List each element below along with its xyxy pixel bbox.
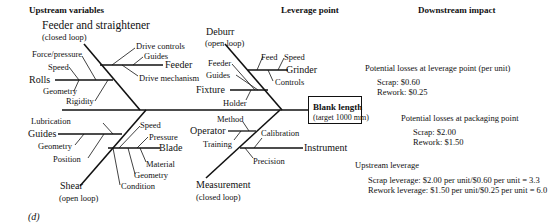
cause-guides-fixture: Guides <box>206 71 230 80</box>
cause-force-pressure: Force/pressure <box>32 50 82 59</box>
branch-blade: Blade <box>159 143 182 153</box>
bone-shear-note: (open loop) <box>59 194 98 203</box>
leverage-losses-title: Potential losses at leverage point (per … <box>365 64 510 73</box>
cause-speed-rolls: Speed <box>48 63 69 72</box>
cause-pressure: Pressure <box>149 133 178 142</box>
bone-deburr-note: (open loop) <box>205 39 244 48</box>
branch-fixture: Fixture <box>196 85 225 95</box>
cause-position: Position <box>53 155 81 164</box>
bone-shear: Shear <box>60 181 83 191</box>
cause-drive-mechanism: Drive mechanism <box>139 74 199 83</box>
header-leverage: Leverage point <box>281 6 339 15</box>
branch-feeder: Feeder <box>165 60 192 70</box>
scrap-leverage: Scrap leverage: $2.00 per unit/$0.60 per… <box>368 176 540 185</box>
cause-speed-blade: Speed <box>140 121 161 130</box>
effect-title: Blank length <box>313 102 362 112</box>
effect-box: Blank length (target 1000 mm) <box>308 96 362 124</box>
cause-speed-grinder: Speed <box>284 53 305 62</box>
cause-geometry-rolls: Geometry <box>43 87 77 96</box>
branch-grinder: Grinder <box>286 65 317 75</box>
bone-feeder-straightener-note: (closed loop) <box>42 33 87 42</box>
leverage-rework: Rework: $0.25 <box>377 88 428 97</box>
bone-deburr: Deburr <box>206 27 234 37</box>
packaging-scrap: Scrap: $2.00 <box>413 128 456 137</box>
figure-label: (d) <box>28 212 40 222</box>
leverage-scrap: Scrap: $0.60 <box>377 78 420 87</box>
bone-measurement-note: (closed loop) <box>196 193 241 202</box>
cause-calibration: Calibration <box>261 129 299 138</box>
packaging-rework: Rework: $1.50 <box>413 138 464 147</box>
bone-feeder-straightener: Feeder and straightener <box>42 20 150 32</box>
cause-geometry-blade: Geometry <box>134 171 168 180</box>
cause-geometry-guides: Geometry <box>38 142 72 151</box>
branch-operator: Operator <box>190 126 226 136</box>
branch-rolls: Rolls <box>29 75 50 85</box>
cause-condition: Condition <box>121 182 155 191</box>
cause-training: Training <box>203 140 232 149</box>
packaging-losses-title: Potential losses at packaging point <box>401 114 519 123</box>
cause-rigidity: Rigidity <box>66 97 94 106</box>
upstream-leverage-title: Upstream leverage <box>355 161 419 170</box>
branch-guides: Guides <box>28 129 56 139</box>
header-upstream: Upstream variables <box>29 6 104 15</box>
cause-material: Material <box>146 160 175 169</box>
rework-leverage: Rework leverage: $1.50 per unit/$0.25 pe… <box>368 186 547 195</box>
cause-drive-controls: Drive controls <box>136 42 185 51</box>
cause-controls: Controls <box>275 78 304 87</box>
cause-precision: Precision <box>253 157 285 166</box>
cause-method: Method <box>217 115 243 124</box>
cause-feeder-fixture: Feeder <box>208 59 231 68</box>
cause-holder: Holder <box>223 99 247 108</box>
cause-feed: Feed <box>261 53 278 62</box>
branch-instrument: Instrument <box>304 143 347 153</box>
bone-measurement: Measurement <box>196 180 250 190</box>
header-downstream: Downstream impact <box>418 6 496 15</box>
cause-lubrication: Lubrication <box>31 117 71 126</box>
effect-subtitle: (target 1000 mm) <box>313 113 369 122</box>
